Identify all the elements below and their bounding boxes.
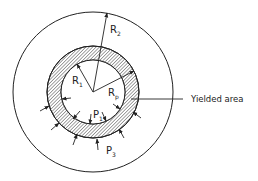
yielded-area-label: Yielded area: [190, 94, 244, 104]
cylinder-diagram: R2 R1 Rp P1 P3 Yielded area: [0, 0, 258, 181]
label-p3: P3: [106, 145, 116, 158]
label-r2: R2: [110, 24, 121, 37]
